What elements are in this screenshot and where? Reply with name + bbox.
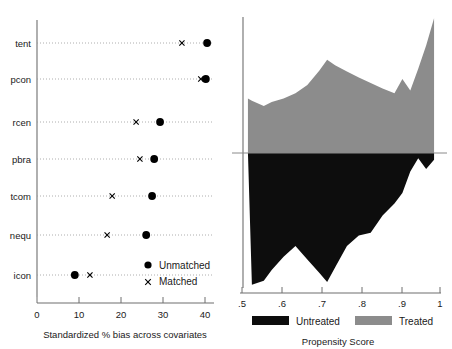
x-tick-label-0p6: .6 [278, 298, 286, 309]
legend-label-untreated: Untreated [296, 316, 340, 327]
data-marker-matched-pbra [137, 156, 142, 161]
legend-swatch-treated-icon [355, 316, 392, 325]
data-marker-unmatched-icon [71, 271, 79, 279]
x-tick-label-0p7: .7 [318, 298, 326, 309]
x-tick-label-10: 10 [74, 309, 85, 320]
y-category-label-pcon: pcon [10, 74, 31, 85]
data-marker-unmatched-pbra [150, 155, 158, 163]
x-axis-title: Standardized % bias across covariates [43, 329, 207, 340]
data-marker-matched-tent [179, 40, 184, 45]
x-tick-label-1: 1 [437, 298, 442, 309]
data-marker-matched-nequ [105, 232, 110, 237]
x-tick-label-20: 20 [116, 309, 127, 320]
legend-marker-unmatched-icon [144, 261, 151, 268]
y-category-label-nequ: nequ [10, 230, 31, 241]
propensity-overlap-svg: .5 .6 .7 .8 .9 1 Untreated Treated Prope… [228, 0, 452, 349]
y-category-label-rcen: rcen [13, 117, 31, 128]
data-marker-unmatched-nequ [142, 231, 150, 239]
area-untreated [248, 153, 434, 285]
data-marker-unmatched-tent [203, 39, 211, 47]
x-tick-label-0p9: .9 [398, 298, 406, 309]
x-tick-label-0p5: .5 [238, 298, 246, 309]
right-panel-propensity-overlap: .5 .6 .7 .8 .9 1 Untreated Treated Prope… [228, 0, 452, 349]
legend-marker-matched-icon [145, 279, 151, 285]
y-category-label-pbra: pbra [12, 154, 32, 165]
bias-dotplot-svg: 0 10 20 30 40 Standardized % bias across… [0, 0, 228, 349]
x-axis-ticks [37, 297, 205, 303]
data-marker-matched-tcom [110, 193, 115, 198]
legend-label-treated: Treated [399, 316, 433, 327]
x-tick-label-0p8: .8 [358, 298, 366, 309]
y-category-label-icon: icon [14, 270, 31, 281]
data-marker-unmatched-rcen [156, 118, 164, 126]
figure-two-panel-balance-plot: 0 10 20 30 40 Standardized % bias across… [0, 0, 452, 349]
x-tick-label-0: 0 [34, 309, 39, 320]
legend-swatch-untreated-icon [252, 316, 289, 325]
data-marker-matched-rcen [134, 119, 139, 124]
legend-propensity: Untreated Treated [252, 316, 433, 327]
data-marker-unmatched-tcom [148, 192, 156, 200]
area-treated [248, 18, 434, 153]
x-tick-label-40: 40 [200, 309, 211, 320]
y-category-label-tent: tent [15, 38, 31, 49]
horizontal-gridlines [37, 43, 214, 275]
legend-dotplot: Unmatched Matched [144, 260, 210, 287]
data-marker-unmatched-pcon [202, 75, 210, 83]
x-axis-title: Propensity Score [302, 336, 374, 347]
left-panel-bias-dotplot: 0 10 20 30 40 Standardized % bias across… [0, 0, 228, 349]
y-category-label-tcom: tcom [10, 191, 31, 202]
x-tick-label-30: 30 [158, 309, 169, 320]
legend-label-matched: Matched [159, 276, 197, 287]
x-axis-ticks [242, 287, 440, 293]
legend-label-unmatched: Unmatched [159, 260, 210, 271]
